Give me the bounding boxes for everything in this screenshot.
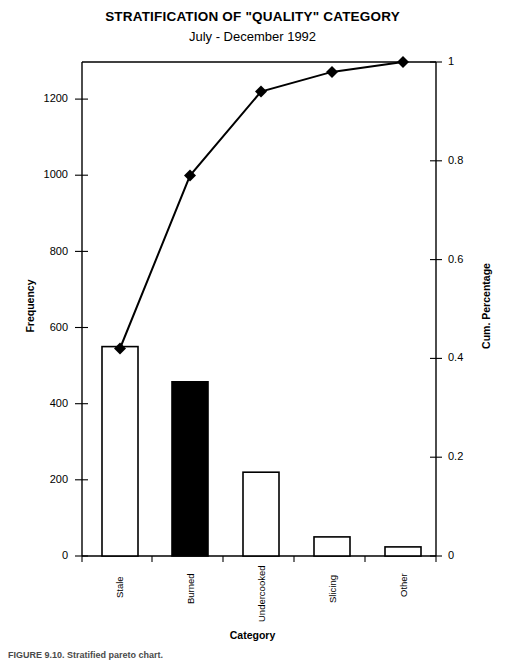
xtick-label-stale: Stale [114,576,125,598]
x-axis-title: Category [0,629,505,641]
bar-slicing [314,537,350,556]
y-axis-title-right: Cum. Percentage [480,254,492,358]
xtick-label-undercooked: Undercooked [256,565,267,622]
y2tick-label-1: 1 [448,55,492,67]
plot-canvas [0,0,505,661]
pareto-chart-figure: STRATIFICATION OF "QUALITY" CATEGORY Jul… [0,0,505,661]
ytick-label-1200: 1200 [24,92,68,104]
xtick-label-burned: Burned [185,573,196,604]
bar-series [102,347,421,556]
y2tick-label-08: 0.8 [448,154,492,166]
marker-other [397,56,409,68]
y2tick-label-0: 0 [448,549,492,561]
ytick-label-0: 0 [24,549,68,561]
bar-other [385,547,421,556]
marker-slicing [326,66,338,78]
ytick-label-400: 400 [24,397,68,409]
ytick-label-800: 800 [24,245,68,257]
figure-caption: FIGURE 9.10. Stratified pareto chart. [8,650,163,661]
bar-burned [172,382,208,556]
y-axis-title-left: Frequency [24,270,36,342]
bar-stale [102,347,138,556]
ytick-label-200: 200 [24,473,68,485]
cumulative-markers [114,56,409,355]
bar-undercooked [243,472,279,556]
ytick-label-1000: 1000 [24,168,68,180]
x-axis-ticks [82,556,436,562]
xtick-label-other: Other [398,573,409,597]
y2tick-label-02: 0.2 [448,450,492,462]
cumulative-line [120,62,403,349]
xtick-label-slicing: Slicing [327,575,338,603]
